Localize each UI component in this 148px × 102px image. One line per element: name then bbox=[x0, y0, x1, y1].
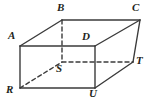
vertex-label-c: C bbox=[132, 2, 139, 13]
vertex-label-t: T bbox=[136, 55, 143, 66]
prism-edge-UT bbox=[95, 62, 133, 88]
prism-svg bbox=[0, 0, 148, 102]
vertex-label-a: A bbox=[8, 30, 15, 41]
vertex-label-u: U bbox=[89, 88, 97, 99]
prism-edges bbox=[20, 20, 140, 88]
vertex-label-s: S bbox=[56, 63, 62, 74]
vertex-label-r: R bbox=[6, 84, 13, 95]
vertex-label-b: B bbox=[57, 2, 64, 13]
vertex-label-d: D bbox=[82, 31, 90, 42]
prism-edge-CD bbox=[95, 20, 140, 46]
prism-figure: ABCDRSTU bbox=[0, 0, 148, 102]
prism-edge-AB bbox=[20, 20, 62, 46]
